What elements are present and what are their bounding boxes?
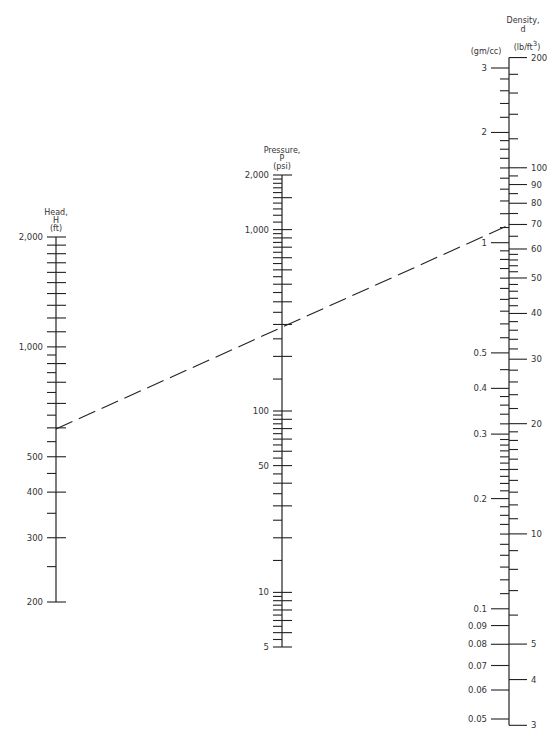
pressure-tick-label: 2,000 bbox=[245, 170, 269, 180]
head-tick-label: 400 bbox=[27, 487, 43, 497]
pressure-tick-label: 100 bbox=[253, 406, 269, 416]
density-left-tick-label: 1 bbox=[482, 238, 487, 248]
density-right-tick-label: 100 bbox=[531, 163, 547, 173]
density-left-tick-label: 3 bbox=[482, 63, 487, 73]
pressure-title: (psi) bbox=[273, 162, 291, 171]
density-left-tick-label: 0.09 bbox=[468, 621, 487, 631]
density-right-tick-label: 60 bbox=[531, 244, 542, 254]
density-right-tick-label: 5 bbox=[531, 639, 536, 649]
head-tick-label: 300 bbox=[27, 533, 43, 543]
head-axis: Head,H(ft)2,0001,000500400300200 bbox=[19, 208, 68, 607]
density-right-tick-label: 70 bbox=[531, 219, 542, 229]
nomograph-svg: Head,H(ft)2,0001,000500400300200 Pressur… bbox=[0, 0, 559, 741]
density-left-units: (gm/cc) bbox=[471, 47, 502, 56]
density-right-units: (lb/ft3) bbox=[514, 40, 541, 52]
nomograph-chart: Head,H(ft)2,0001,000500400300200 Pressur… bbox=[0, 0, 559, 741]
density-right-tick-label: 4 bbox=[531, 675, 536, 685]
head-tick-label: 200 bbox=[27, 597, 43, 607]
density-right-tick-label: 80 bbox=[531, 198, 542, 208]
pressure-axis: Pressure,P(psi)2,0001,00010050105 bbox=[245, 146, 301, 652]
density-left-tick-label: 0.05 bbox=[468, 714, 487, 724]
density-left-tick-label: 0.07 bbox=[468, 661, 487, 671]
density-right-tick-label: 30 bbox=[531, 354, 542, 364]
head-tick-label: 500 bbox=[27, 452, 43, 462]
density-right-tick-label: 3 bbox=[531, 720, 536, 730]
density-right-tick-label: 90 bbox=[531, 180, 542, 190]
density-left-tick-label: 0.06 bbox=[468, 685, 487, 695]
density-right-tick-label: 20 bbox=[531, 419, 542, 429]
density-axis: Density,d(gm/cc)(lb/ft3)3210.50.40.30.20… bbox=[468, 16, 547, 730]
pressure-tick-label: 10 bbox=[258, 587, 269, 597]
density-title: d bbox=[520, 25, 525, 34]
pressure-tick-label: 50 bbox=[258, 461, 269, 471]
pressure-tick-label: 1,000 bbox=[245, 225, 269, 235]
head-tick-label: 2,000 bbox=[19, 232, 43, 242]
density-left-tick-label: 0.1 bbox=[473, 604, 487, 614]
density-title: Density, bbox=[507, 16, 540, 25]
density-left-tick-label: 0.3 bbox=[473, 429, 487, 439]
density-right-tick-label: 200 bbox=[531, 53, 547, 63]
density-right-tick-label: 50 bbox=[531, 273, 542, 283]
density-left-tick-label: 2 bbox=[482, 127, 487, 137]
pressure-tick-label: 5 bbox=[264, 642, 269, 652]
density-right-tick-label: 10 bbox=[531, 529, 542, 539]
density-left-tick-label: 0.2 bbox=[473, 494, 487, 504]
head-tick-label: 1,000 bbox=[19, 342, 43, 352]
density-left-tick-label: 0.4 bbox=[473, 383, 487, 393]
head-title: (ft) bbox=[50, 224, 62, 233]
density-right-tick-label: 40 bbox=[531, 308, 542, 318]
density-left-tick-label: 0.5 bbox=[473, 348, 487, 358]
density-left-tick-label: 0.08 bbox=[468, 639, 487, 649]
